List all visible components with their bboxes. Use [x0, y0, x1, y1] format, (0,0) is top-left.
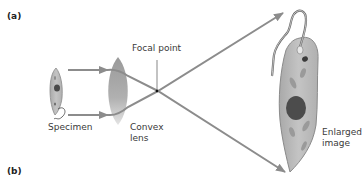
- specimen-icon: [50, 68, 65, 119]
- convex-lens-label-line1: Convex: [130, 122, 164, 133]
- focal-point-label: Focal point: [132, 43, 181, 54]
- enlarged-image-icon: [272, 11, 318, 172]
- lens-diagram: [0, 0, 364, 185]
- enlarged-image-label-line1: Enlarged: [322, 127, 362, 138]
- enlarged-image-label-line2: image: [322, 138, 350, 149]
- specimen-label: Specimen: [48, 122, 92, 133]
- convex-lens-label-line2: lens: [130, 133, 148, 144]
- focal-point-dot: [156, 90, 159, 93]
